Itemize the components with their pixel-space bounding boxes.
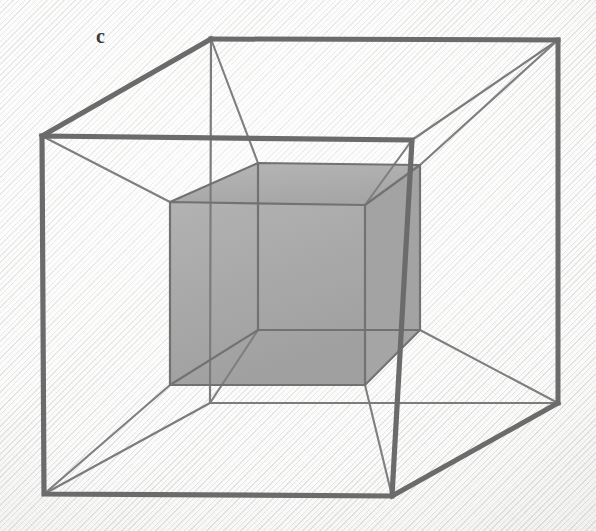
outer-depth-top-right [412, 40, 558, 140]
figure-panel-label: c [96, 26, 105, 46]
figure-canvas: c [0, 0, 596, 531]
connector-front-bottom-right [365, 385, 392, 496]
connector-back-top-left [211, 39, 258, 163]
ridge-bottom-right [392, 403, 558, 496]
ridge-top-left [42, 39, 211, 136]
ridge-top-back [211, 39, 558, 40]
connector-front-top-left [42, 136, 170, 202]
inner-cube-front-face [170, 202, 365, 385]
connector-front-bottom-left [44, 385, 170, 494]
outer-depth-bottom-left [44, 403, 210, 494]
connector-back-top-right [420, 40, 558, 165]
connector-back-bottom-right [420, 330, 558, 403]
inner-cube-shading [170, 163, 420, 385]
tesseract-diagram [0, 0, 596, 531]
